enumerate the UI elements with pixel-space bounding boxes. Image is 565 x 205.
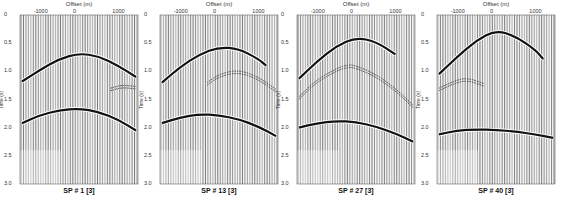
y-tick-label: 0.5: [4, 39, 12, 45]
x-axis-title: Offset (m): [206, 1, 233, 7]
seismogram-plot: [0, 0, 142, 205]
panel-caption: SP # 40 [3]: [478, 187, 513, 194]
x-tick-label: -1000: [34, 8, 48, 14]
seismic-panel-sp13: Offset (m)Time (s)-10000100000.51.01.52.…: [140, 0, 282, 205]
y-tick-label: 2.0: [4, 124, 12, 130]
y-tick-label: 0.5: [281, 39, 289, 45]
y-tick-label: 1.0: [144, 67, 152, 73]
x-tick-label: 1000: [252, 8, 264, 14]
panel-caption: SP # 1 [3]: [63, 187, 94, 194]
y-tick-label: 0.5: [421, 39, 429, 45]
x-tick-label: -1000: [311, 8, 325, 14]
x-axis-title: Offset (m): [343, 1, 370, 7]
y-tick-label: 1.5: [4, 96, 12, 102]
y-tick-label: 0: [4, 11, 7, 17]
x-tick-label: 1000: [112, 8, 124, 14]
panel-caption: SP # 27 [3]: [338, 187, 373, 194]
x-tick-label: 0: [73, 8, 76, 14]
y-tick-label: 1.0: [421, 67, 429, 73]
y-tick-label: 0: [281, 11, 284, 17]
y-tick-label: 2.5: [4, 152, 12, 158]
y-tick-label: 0: [144, 11, 147, 17]
y-tick-label: 2.0: [421, 124, 429, 130]
x-tick-label: -1000: [451, 8, 465, 14]
x-tick-label: 1000: [389, 8, 401, 14]
x-tick-label: -1000: [174, 8, 188, 14]
y-tick-label: 3.0: [4, 180, 12, 186]
y-tick-label: 2.5: [421, 152, 429, 158]
x-tick-label: 1000: [529, 8, 541, 14]
seismogram-plot: [140, 0, 282, 205]
y-tick-label: 3.0: [144, 180, 152, 186]
y-tick-label: 1.5: [421, 96, 429, 102]
y-tick-label: 0: [421, 11, 424, 17]
y-tick-label: 2.5: [281, 152, 289, 158]
y-tick-label: 1.5: [281, 96, 289, 102]
seismic-panel-sp1: Offset (m)Time (s)-10000100000.51.01.52.…: [0, 0, 142, 205]
y-tick-label: 1.0: [4, 67, 12, 73]
y-tick-label: 2.0: [144, 124, 152, 130]
seismogram-plot: [417, 0, 559, 205]
seismic-panel-sp27: Offset (m)Time (s)-10000100000.51.01.52.…: [277, 0, 419, 205]
y-tick-label: 2.0: [281, 124, 289, 130]
y-tick-label: 2.5: [144, 152, 152, 158]
x-axis-title: Offset (m): [483, 1, 510, 7]
x-tick-label: 0: [350, 8, 353, 14]
y-tick-label: 3.0: [421, 180, 429, 186]
y-tick-label: 3.0: [281, 180, 289, 186]
x-axis-title: Offset (m): [66, 1, 93, 7]
y-tick-label: 1.0: [281, 67, 289, 73]
y-tick-label: 0.5: [144, 39, 152, 45]
panel-caption: SP # 13 [3]: [201, 187, 236, 194]
x-tick-label: 0: [490, 8, 493, 14]
y-tick-label: 1.5: [144, 96, 152, 102]
seismogram-plot: [277, 0, 419, 205]
seismic-panel-sp40: Offset (m)Time (s)-10000100000.51.01.52.…: [417, 0, 559, 205]
x-tick-label: 0: [213, 8, 216, 14]
